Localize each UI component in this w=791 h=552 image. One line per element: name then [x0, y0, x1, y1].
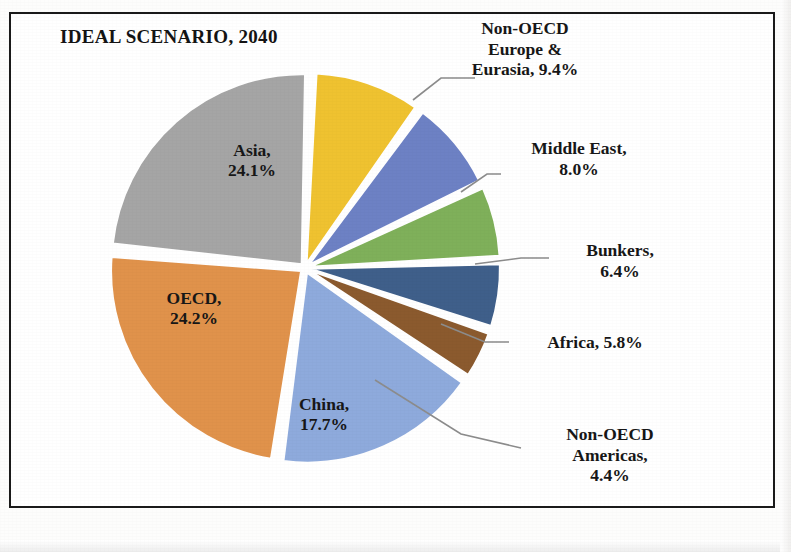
scanned-page: Asia, 24.1% OECD, 24.2% China, 17.7% Non…: [0, 0, 791, 552]
slice-label-asia: Asia, 24.1%: [187, 140, 317, 181]
slice-label-oecd: OECD, 24.2%: [119, 288, 269, 329]
slice-label-middle-east: Middle East, 8.0%: [497, 138, 661, 179]
chart-title: IDEAL SCENARIO, 2040: [60, 26, 278, 48]
page-edge-shadow-bottom: [0, 540, 791, 552]
leader-line-bunkers: [475, 258, 549, 264]
slice-label-non-oecd-europe-eurasia: Non-OECD Europe & Eurasia, 9.4%: [441, 18, 609, 80]
slice-label-africa: Africa, 5.8%: [505, 332, 685, 353]
page-edge-shadow-right: [780, 0, 791, 552]
leader-line-non-oecd-europe-eurasia: [413, 78, 475, 100]
slice-label-bunkers: Bunkers, 6.4%: [545, 240, 695, 281]
pie-chart: Asia, 24.1% OECD, 24.2% China, 17.7% Non…: [9, 12, 775, 508]
slice-label-china: China, 17.7%: [254, 394, 394, 435]
slice-label-non-oecd-americas: Non-OECD Americas, 4.4%: [525, 424, 695, 486]
